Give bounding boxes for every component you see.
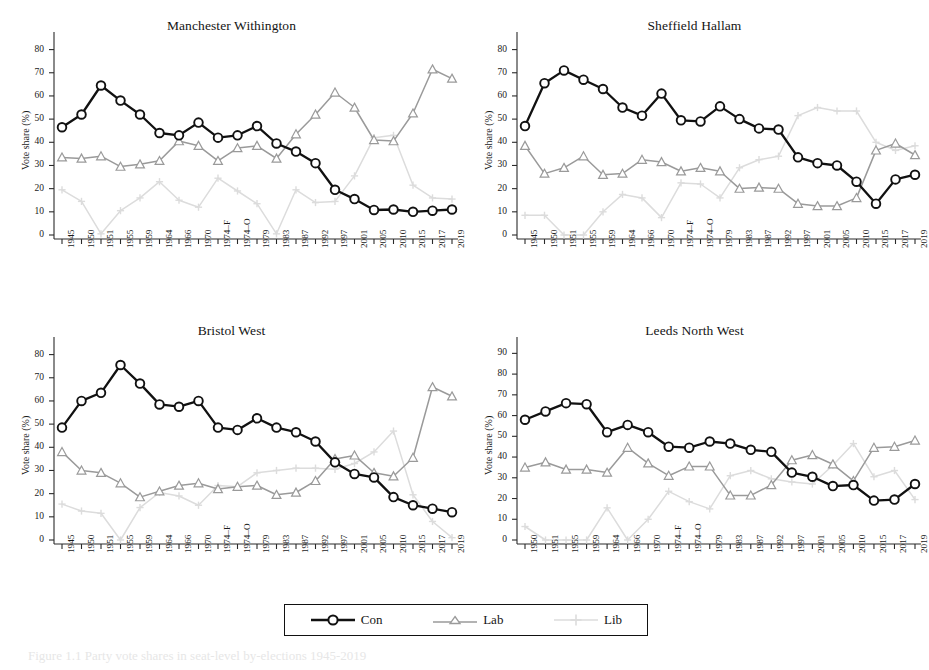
chart-panel-leeds-north-west: Leeds North West 01020304050607080901950… xyxy=(463,305,926,605)
data-point xyxy=(97,81,106,90)
data-point xyxy=(448,508,457,517)
data-point xyxy=(638,155,647,163)
x-axis-tick-label: 2010 xyxy=(398,230,408,248)
data-point xyxy=(541,458,550,466)
data-point xyxy=(350,470,359,479)
data-point xyxy=(657,89,666,98)
data-point xyxy=(813,159,822,168)
data-point xyxy=(890,495,899,504)
x-axis-tick-label: 1979 xyxy=(714,535,724,553)
data-point xyxy=(644,428,653,437)
legend-label-lab: Lab xyxy=(483,612,503,628)
y-axis-tick-label: 20 xyxy=(485,183,507,193)
data-point xyxy=(448,392,457,400)
x-axis-tick-label: 1964 xyxy=(627,230,637,248)
y-axis-title: Vote share (%) xyxy=(483,110,494,169)
x-axis-tick-label: 1997 xyxy=(339,230,349,248)
x-axis-tick-label: 1974–O xyxy=(242,218,252,248)
data-point xyxy=(705,437,714,446)
x-axis-tick-label: 2017 xyxy=(898,535,908,553)
legend-label-con: Con xyxy=(361,612,383,628)
x-axis-tick-label: 1974–F xyxy=(222,220,232,248)
x-axis-tick-label: 1959 xyxy=(591,535,601,553)
data-point xyxy=(136,110,145,119)
x-axis-tick-label: 1966 xyxy=(183,535,193,553)
y-axis-tick-label: 0 xyxy=(22,534,44,544)
y-axis-tick-label: 80 xyxy=(485,368,507,378)
data-point xyxy=(808,472,817,481)
y-axis-tick-label: 0 xyxy=(485,229,507,239)
legend-entry-con: Con xyxy=(310,612,383,628)
data-point xyxy=(746,445,755,454)
data-point xyxy=(911,170,920,179)
legend-line-triangle-icon xyxy=(432,613,478,627)
x-axis-tick-label: 1992 xyxy=(783,230,793,248)
x-axis-tick-label: 2017 xyxy=(437,535,447,553)
chart-legend: Con Lab Lib xyxy=(284,604,648,636)
x-axis-tick-label: 2017 xyxy=(900,230,910,248)
y-axis-tick-label: 60 xyxy=(22,90,44,100)
chart-panel-bristol-west: Bristol West 010203040506070801945195019… xyxy=(0,305,463,605)
data-point xyxy=(677,116,686,125)
x-axis-tick-label: 1951 xyxy=(568,230,578,248)
y-axis-tick-label: 10 xyxy=(485,513,507,523)
data-point xyxy=(603,428,612,437)
data-point xyxy=(194,118,203,127)
x-axis-tick-label: 1955 xyxy=(588,230,598,248)
data-point xyxy=(116,361,125,370)
y-axis-tick-label: 80 xyxy=(22,44,44,54)
data-point xyxy=(852,177,861,186)
x-axis-tick-label: 1955 xyxy=(570,535,580,553)
data-point xyxy=(716,102,725,111)
legend-entry-lab: Lab xyxy=(432,612,503,628)
x-axis-tick-label: 1987 xyxy=(300,230,310,248)
data-point xyxy=(389,205,398,214)
y-axis-tick-label: 20 xyxy=(22,183,44,193)
data-point xyxy=(664,442,673,451)
data-point xyxy=(253,141,262,149)
x-axis-tick-label: 1997 xyxy=(339,535,349,553)
x-axis-tick-label: 1966 xyxy=(646,230,656,248)
x-axis-tick-label: 1964 xyxy=(611,535,621,553)
x-axis-tick-label: 1951 xyxy=(105,535,115,553)
data-point xyxy=(292,488,301,496)
data-point xyxy=(540,79,549,88)
data-point xyxy=(58,423,67,432)
x-axis-tick-label: 1987 xyxy=(763,230,773,248)
data-point xyxy=(829,482,838,491)
data-point xyxy=(175,402,184,411)
x-axis-tick-label: 1950 xyxy=(86,230,96,248)
x-axis-tick-label: 2001 xyxy=(359,230,369,248)
legend-label-lib: Lib xyxy=(604,612,622,628)
data-point xyxy=(97,389,106,398)
x-axis-tick-label: 1983 xyxy=(281,230,291,248)
data-point xyxy=(735,115,744,124)
data-point xyxy=(521,141,530,149)
data-point xyxy=(77,397,86,406)
x-axis-tick-label: 1974–O xyxy=(705,218,715,248)
data-point xyxy=(870,496,879,505)
data-point xyxy=(521,415,530,424)
data-point xyxy=(794,153,803,162)
x-axis-tick-label: 1955 xyxy=(125,230,135,248)
data-point xyxy=(253,414,262,423)
x-axis-tick-label: 1979 xyxy=(724,230,734,248)
data-point xyxy=(562,399,571,408)
chart-panel-manchester-withington: Manchester Withington 010203040506070801… xyxy=(0,0,463,300)
series-line-Lab xyxy=(62,69,452,166)
y-axis-tick-label: 90 xyxy=(485,347,507,357)
data-point xyxy=(623,443,632,451)
data-point xyxy=(116,96,125,105)
x-axis-tick-label: 2001 xyxy=(822,230,832,248)
data-point xyxy=(311,437,320,446)
data-point xyxy=(331,88,340,96)
data-point xyxy=(541,407,550,416)
x-axis-tick-label: 1970 xyxy=(203,230,213,248)
data-point xyxy=(618,103,627,112)
x-axis-tick-label: 1983 xyxy=(744,230,754,248)
y-axis-tick-label: 10 xyxy=(485,206,507,216)
x-axis-tick-label: 1992 xyxy=(320,230,330,248)
x-axis-tick-label: 2005 xyxy=(837,535,847,553)
plot-area-2: 0102030405060708019451950195119551959196… xyxy=(0,305,463,605)
x-axis-tick-label: 1945 xyxy=(529,230,539,248)
